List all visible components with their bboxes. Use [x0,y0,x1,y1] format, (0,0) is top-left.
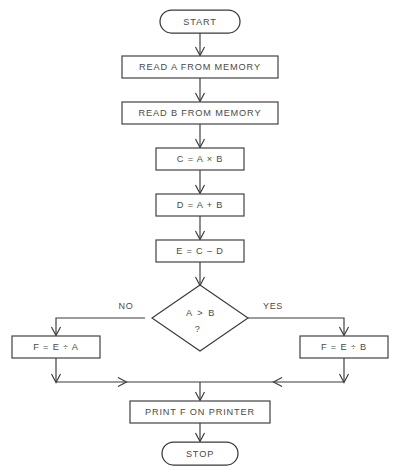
branch-label-no: NO [119,301,134,311]
node-decision[interactable]: A > B ? [152,285,248,351]
node-start[interactable]: START [160,10,240,33]
connector-read-a-to-read-b [196,78,205,102]
node-branch-yes-label: F = E ÷ B [321,342,367,352]
node-decision-label-line1: A > B [186,308,216,318]
connector-compute-d-to-compute-e [196,216,205,240]
branch-label-yes: YES [263,301,283,311]
node-compute-e[interactable]: E = C – D [156,240,244,262]
node-stop[interactable]: STOP [162,442,238,465]
node-stop-label: STOP [186,449,214,459]
connector-read-b-to-compute-c [196,124,205,148]
connector-decision-yes-branch [248,318,349,336]
connector-compute-c-to-compute-d [196,170,205,194]
node-branch-no-label: F = E ÷ A [33,342,79,352]
connector-no-branch-to-merge [52,358,61,383]
node-compute-c[interactable]: C = A × B [156,148,244,170]
connector-start-to-read-a [196,33,205,56]
node-compute-c-label: C = A × B [177,154,223,164]
node-read-b[interactable]: READ B FROM MEMORY [122,102,278,124]
connector-print-to-stop [196,423,205,442]
node-branch-no[interactable]: F = E ÷ A [12,336,100,358]
flowchart-svg: START READ A FROM MEMORY READ B FROM MEM… [0,0,395,475]
connector-merge-to-print [196,382,205,401]
node-branch-yes[interactable]: F = E ÷ B [300,336,388,358]
node-decision-label-line2: ? [195,324,202,334]
node-read-a[interactable]: READ A FROM MEMORY [122,56,278,78]
node-print[interactable]: PRINT F ON PRINTER [130,401,270,423]
node-print-label: PRINT F ON PRINTER [145,407,255,417]
node-compute-d[interactable]: D = A + B [156,194,244,216]
node-start-label: START [183,17,217,27]
node-compute-e-label: E = C – D [176,246,224,256]
connector-decision-no-branch [52,318,146,336]
node-read-b-label: READ B FROM MEMORY [139,108,262,118]
node-compute-d-label: D = A + B [177,200,223,210]
connector-yes-branch-to-merge [340,358,349,383]
connector-compute-e-to-decision [196,262,205,286]
flowchart-canvas: START READ A FROM MEMORY READ B FROM MEM… [0,0,395,475]
node-read-a-label: READ A FROM MEMORY [139,62,261,72]
